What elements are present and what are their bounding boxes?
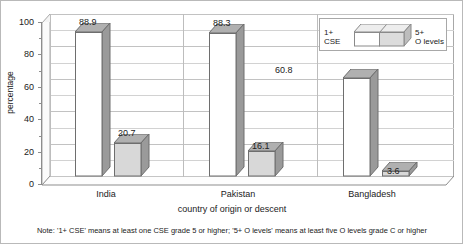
x-axis-title: country of origin or descent bbox=[0, 204, 464, 214]
x-tick-label-bangladesh: Bangladesh bbox=[333, 189, 411, 199]
legend-label-5plus-olevels-line1: 5+ bbox=[415, 28, 447, 37]
legend-label-5plus-olevels: 5+ O levels bbox=[415, 28, 447, 46]
value-label-bangladesh-1plus-cse: 60.8 bbox=[275, 66, 293, 75]
value-label-india-1plus-cse: 88.9 bbox=[79, 18, 97, 27]
bar-bangladesh-1plus-cse[interactable] bbox=[343, 69, 379, 177]
value-label-pakistan-1plus-cse: 88.3 bbox=[213, 19, 231, 28]
y-tick-label-0: 0 bbox=[0, 180, 34, 189]
y-tick-label-40: 40 bbox=[0, 115, 34, 124]
value-label-pakistan-5plus-olevels: 16.1 bbox=[252, 142, 270, 151]
legend-swatch-3d-bar-icon bbox=[354, 24, 412, 47]
bar-india-1plus-cse[interactable] bbox=[75, 23, 111, 177]
value-label-bangladesh-5plus-olevels: 3.6 bbox=[387, 167, 400, 176]
legend-label-1plus-cse-line2: CSE bbox=[324, 37, 353, 46]
chart-screenshot: percentage 100 80 60 40 20 0 bbox=[0, 0, 464, 245]
chart-footnote: Note: '1+ CSE' means at least one CSE gr… bbox=[0, 226, 464, 235]
x-tick-label-india: India bbox=[74, 189, 138, 199]
value-label-india-5plus-olevels: 20.7 bbox=[118, 129, 136, 138]
bar-india-5plus-olevels[interactable] bbox=[114, 134, 150, 177]
legend-label-5plus-olevels-line2: O levels bbox=[415, 37, 447, 46]
bar-pakistan-1plus-cse[interactable] bbox=[209, 24, 245, 177]
y-tick-label-100: 100 bbox=[0, 18, 34, 27]
y-tick-label-20: 20 bbox=[0, 148, 34, 157]
x-tick-label-pakistan: Pakistan bbox=[206, 189, 270, 199]
legend-label-1plus-cse: 1+ CSE bbox=[324, 28, 353, 46]
y-tick-label-60: 60 bbox=[0, 83, 34, 92]
legend-label-1plus-cse-line1: 1+ bbox=[324, 28, 353, 37]
chart-legend[interactable]: 1+ CSE 5+ O levels bbox=[319, 18, 447, 51]
y-tick-label-80: 80 bbox=[0, 50, 34, 59]
